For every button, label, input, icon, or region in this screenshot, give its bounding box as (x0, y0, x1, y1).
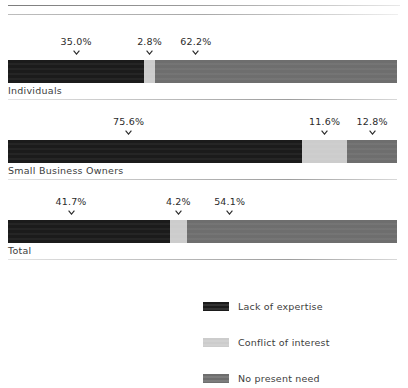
bar-segment-conflict-of-interest[interactable] (302, 140, 347, 163)
group-divider (8, 99, 397, 100)
legend-item-no-present-need[interactable]: No present need (203, 360, 403, 388)
callout: 41.7% (43, 190, 99, 215)
chevron-down-icon (175, 210, 182, 215)
legend-item-conflict-of-interest[interactable]: Conflict of interest (203, 324, 403, 360)
callout-value: 11.6% (309, 116, 340, 127)
callout: 62.2% (168, 30, 224, 55)
group-divider (8, 179, 397, 180)
bar-segment-no-present-need[interactable] (187, 220, 397, 243)
callout: 4.2% (150, 190, 206, 215)
bar-group-small-business-owners: 75.6% 11.6% 12.8% Smal (8, 110, 397, 180)
legend-swatch-icon (203, 338, 229, 347)
bar-segment-no-present-need[interactable] (155, 60, 397, 83)
callout: 35.0% (48, 30, 104, 55)
callout-row: 75.6% 11.6% 12.8% (8, 110, 397, 140)
bar-segment-conflict-of-interest[interactable] (144, 60, 155, 83)
bar-segment-lack-of-expertise[interactable] (8, 60, 144, 83)
bar-group-individuals: 35.0% 2.8% 62.2% Indiv (8, 30, 397, 100)
callout: 54.1% (202, 190, 258, 215)
bar-group-total: 41.7% 4.2% 54.1% Total (8, 190, 397, 260)
callout: 75.6% (101, 110, 157, 135)
callout-value: 62.2% (180, 36, 211, 47)
callout-value: 41.7% (55, 196, 86, 207)
stacked-bar (8, 140, 397, 163)
legend-item-lack-of-expertise[interactable]: Lack of expertise (203, 288, 403, 324)
bar-segment-lack-of-expertise[interactable] (8, 220, 170, 243)
callout-value: 35.0% (60, 36, 91, 47)
stacked-bar-chart: 35.0% 2.8% 62.2% Indiv (0, 0, 408, 280)
callout-value: 4.2% (166, 196, 191, 207)
legend-label: Conflict of interest (238, 337, 330, 348)
legend-swatch-icon (203, 374, 229, 383)
callout-row: 41.7% 4.2% 54.1% (8, 190, 397, 220)
callout-value: 2.8% (137, 36, 162, 47)
legend-label: Lack of expertise (238, 301, 323, 312)
bar-group-label: Total (8, 243, 397, 258)
chevron-down-icon (73, 50, 80, 55)
callout: 12.8% (344, 110, 400, 135)
callout-value: 75.6% (113, 116, 144, 127)
callout-row: 35.0% 2.8% 62.2% (8, 30, 397, 60)
callout-value: 54.1% (214, 196, 245, 207)
stacked-bar (8, 60, 397, 83)
bar-segment-no-present-need[interactable] (347, 140, 397, 163)
chart-legend: Lack of expertise Conflict of interest N… (203, 288, 403, 388)
group-divider (8, 259, 397, 260)
chevron-down-icon (68, 210, 75, 215)
legend-label: No present need (238, 373, 320, 384)
stacked-bar (8, 220, 397, 243)
bar-segment-conflict-of-interest[interactable] (170, 220, 186, 243)
callout-value: 12.8% (357, 116, 388, 127)
chevron-down-icon (369, 130, 376, 135)
chevron-down-icon (146, 50, 153, 55)
chevron-down-icon (125, 130, 132, 135)
bar-segment-lack-of-expertise[interactable] (8, 140, 302, 163)
chevron-down-icon (192, 50, 199, 55)
bar-group-label: Individuals (8, 83, 397, 98)
chevron-down-icon (321, 130, 328, 135)
bar-group-label: Small Business Owners (8, 163, 397, 178)
legend-swatch-icon (203, 302, 229, 311)
chevron-down-icon (226, 210, 233, 215)
